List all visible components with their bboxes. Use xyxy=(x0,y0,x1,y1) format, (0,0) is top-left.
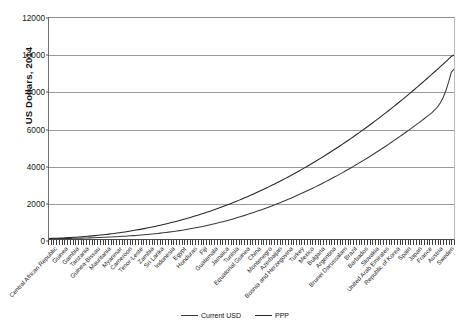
x-axis-tick-mark xyxy=(307,240,308,245)
x-axis-tick-mark xyxy=(173,240,174,245)
x-axis-tick-mark xyxy=(56,240,57,245)
x-axis-tick-mark xyxy=(162,240,163,245)
x-axis-tick-mark xyxy=(353,240,354,245)
x-axis-tick-mark xyxy=(334,240,335,245)
x-axis-tick-mark xyxy=(408,240,409,245)
x-axis-tick-mark xyxy=(394,240,395,245)
x-axis-tick-mark xyxy=(364,240,365,245)
x-axis-label: Central African Republic xyxy=(8,245,59,298)
x-axis-tick-mark xyxy=(62,240,63,245)
x-axis-tick-mark xyxy=(247,240,248,245)
chart-container: US Dollars, 2014 02000400060008000100001… xyxy=(0,0,470,330)
x-axis-tick-mark xyxy=(402,240,403,245)
x-axis-tick-mark xyxy=(233,240,234,245)
legend-label-ppp: PPP xyxy=(275,312,289,319)
x-axis-tick-mark xyxy=(64,240,65,245)
x-axis-tick-mark xyxy=(301,240,302,245)
x-axis-tick-mark xyxy=(78,240,79,245)
x-axis-tick-mark xyxy=(73,240,74,245)
x-axis-tick-mark xyxy=(296,240,297,245)
x-axis-tick-mark xyxy=(135,240,136,245)
x-axis-tick-mark xyxy=(53,240,54,245)
x-axis-tick-mark xyxy=(141,240,142,245)
x-axis-tick-mark xyxy=(231,240,232,245)
x-axis-tick-mark xyxy=(122,240,123,245)
x-axis-tick-mark xyxy=(198,240,199,245)
x-axis-tick-mark xyxy=(217,240,218,245)
y-axis-tick-label: 4000 xyxy=(27,162,45,171)
x-axis-tick-mark xyxy=(190,240,191,245)
y-axis-tick-label: 8000 xyxy=(27,88,45,97)
x-axis-tick-mark xyxy=(124,240,125,245)
x-axis-tick-mark xyxy=(239,240,240,245)
x-axis-tick-mark xyxy=(266,240,267,245)
x-axis-tick-mark xyxy=(92,240,93,245)
x-axis-tick-mark xyxy=(443,240,444,245)
x-axis-tick-mark xyxy=(48,240,49,245)
series-line-ppp xyxy=(49,55,454,239)
x-axis-tick-mark xyxy=(345,240,346,245)
x-axis-tick-mark xyxy=(432,240,433,245)
x-axis-tick-mark xyxy=(201,240,202,245)
x-axis-tick-mark xyxy=(451,240,452,245)
y-axis-tick-label: 12000 xyxy=(22,14,45,23)
x-axis-tick-mark xyxy=(130,240,131,245)
x-axis-tick-mark xyxy=(168,240,169,245)
x-axis-tick-mark xyxy=(329,240,330,245)
x-axis-tick-mark xyxy=(370,240,371,245)
x-axis-tick-mark xyxy=(108,240,109,245)
x-axis-tick-mark xyxy=(400,240,401,245)
series-line-current-usd xyxy=(49,69,454,239)
x-axis-tick-mark xyxy=(225,240,226,245)
x-axis-tick-mark xyxy=(326,240,327,245)
x-axis-tick-mark xyxy=(318,240,319,245)
x-axis-tick-mark xyxy=(293,240,294,245)
x-axis-tick-mark xyxy=(280,240,281,245)
x-axis-tick-mark xyxy=(250,240,251,245)
x-axis-tick-mark xyxy=(211,240,212,245)
x-axis-tick-mark xyxy=(291,240,292,245)
x-axis-tick-mark xyxy=(350,240,351,245)
x-axis-tick-mark xyxy=(252,240,253,245)
x-axis-tick-mark xyxy=(367,240,368,245)
x-axis-tick-mark xyxy=(86,240,87,245)
x-axis-tick-mark xyxy=(75,240,76,245)
legend-item-ppp: PPP xyxy=(255,312,289,319)
x-axis-tick-mark xyxy=(413,240,414,245)
y-axis-tick-label: 2000 xyxy=(27,199,45,208)
x-axis-tick-mark xyxy=(111,240,112,245)
x-axis-tick-mark xyxy=(348,240,349,245)
x-axis-tick-mark xyxy=(255,240,256,245)
x-axis-tick-mark xyxy=(261,240,262,245)
x-axis-tick-mark xyxy=(361,240,362,245)
x-axis-tick-mark xyxy=(146,240,147,245)
x-axis-tick-mark xyxy=(176,240,177,245)
x-axis-tick-mark xyxy=(383,240,384,245)
x-axis-tick-mark xyxy=(391,240,392,245)
x-axis-tick-mark xyxy=(378,240,379,245)
x-axis-tick-mark xyxy=(116,240,117,245)
x-axis-tick-mark xyxy=(214,240,215,245)
x-axis-tick-mark xyxy=(228,240,229,245)
y-axis-tick-label: 0 xyxy=(40,237,45,246)
x-axis-tick-mark xyxy=(81,240,82,245)
x-axis-tick-mark xyxy=(454,240,455,245)
x-axis-tick-mark xyxy=(446,240,447,245)
x-axis-category-labels: Central African RepublicGuineaGambiaTanz… xyxy=(48,245,455,305)
x-axis-tick-mark xyxy=(271,240,272,245)
x-axis-tick-mark xyxy=(113,240,114,245)
x-axis-tick-mark xyxy=(389,240,390,245)
x-axis-tick-mark xyxy=(315,240,316,245)
x-axis-tick-mark xyxy=(51,240,52,245)
x-axis-tick-mark xyxy=(405,240,406,245)
x-axis-tick-mark xyxy=(165,240,166,245)
x-axis-tick-mark xyxy=(244,240,245,245)
x-axis-tick-mark xyxy=(397,240,398,245)
series-lines xyxy=(49,18,454,239)
x-axis-tick-mark xyxy=(132,240,133,245)
x-axis-tick-mark xyxy=(119,240,120,245)
y-axis-tick-label: 10000 xyxy=(22,51,45,60)
x-axis-tick-mark xyxy=(282,240,283,245)
legend-swatch-current-usd xyxy=(181,315,198,316)
legend-swatch-ppp xyxy=(255,315,272,316)
